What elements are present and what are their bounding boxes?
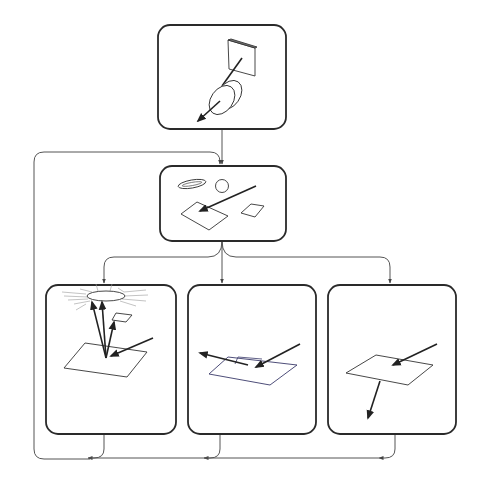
edge-right-to-bus [379,434,395,458]
edge-incidence-to-left [104,241,222,283]
node-incidence[interactable] [160,166,286,241]
diagram-canvas [0,0,494,488]
node-diffuse-reflection[interactable] [46,284,176,434]
edge-incidence-to-right [222,241,390,283]
node-specular-reflection[interactable] [188,285,316,434]
node-source[interactable] [158,25,286,129]
node-transmission[interactable] [328,285,456,434]
edge-center-to-bus [204,434,220,458]
edge-left-to-bus [88,434,104,458]
